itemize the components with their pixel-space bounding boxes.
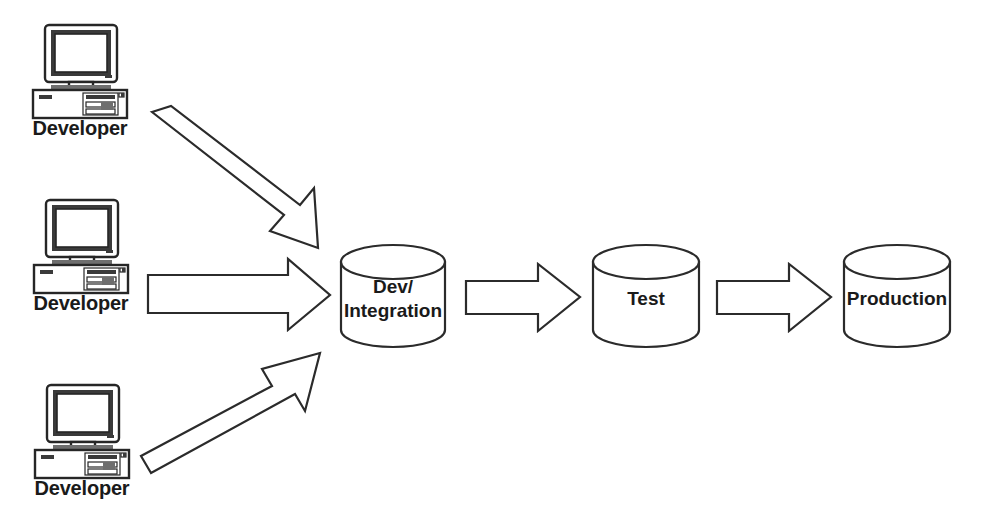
stage-label-production: Production bbox=[847, 288, 947, 309]
stage-label-dev-integration-line1: Dev/ bbox=[373, 276, 414, 297]
developer-label-2: Developer bbox=[34, 292, 129, 314]
stage-node-dev-integration: Dev/ Integration bbox=[341, 245, 445, 347]
developer-label-3: Developer bbox=[35, 477, 130, 499]
developer-node-2: Developer bbox=[34, 200, 129, 314]
stage-node-production: Production bbox=[844, 245, 950, 347]
diagram-canvas: Developer Developer bbox=[0, 0, 984, 527]
arrow-dev2-to-integration bbox=[148, 259, 330, 330]
stage-node-test: Test bbox=[593, 245, 699, 347]
desktop-computer-icon bbox=[33, 25, 127, 118]
arrow-test-to-production bbox=[717, 264, 831, 331]
arrow-dev1-to-integration bbox=[152, 106, 318, 248]
deployment-pipeline-diagram: Developer Developer bbox=[0, 0, 984, 527]
desktop-computer-icon bbox=[34, 200, 128, 293]
stage-label-test: Test bbox=[627, 288, 665, 309]
arrow-dev3-to-integration bbox=[141, 353, 320, 473]
developer-node-1: Developer bbox=[33, 25, 128, 139]
developer-node-3: Developer bbox=[35, 385, 130, 499]
arrow-integration-to-test bbox=[466, 264, 580, 331]
stage-label-dev-integration-line2: Integration bbox=[344, 300, 442, 321]
developer-label-1: Developer bbox=[33, 117, 128, 139]
desktop-computer-icon bbox=[35, 385, 129, 478]
